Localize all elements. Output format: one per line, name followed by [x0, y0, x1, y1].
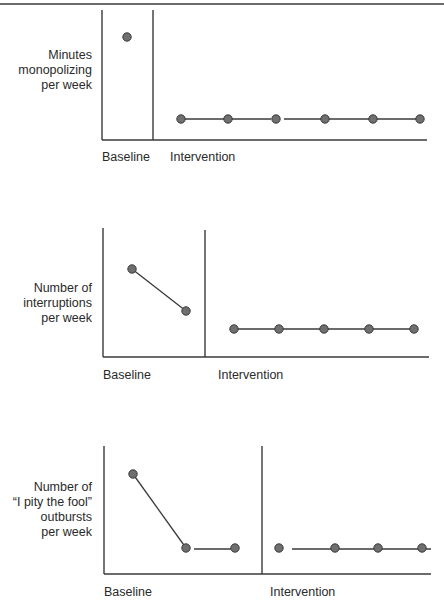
phase-label-baseline: Baseline — [104, 585, 152, 599]
baseline-data-point — [129, 470, 137, 478]
plot-area — [0, 0, 444, 600]
baseline-data-point — [231, 544, 239, 552]
phase-label-intervention: Intervention — [270, 585, 335, 599]
baseline-data-point — [182, 544, 190, 552]
intervention-data-point — [331, 544, 339, 552]
intervention-data-point — [275, 544, 283, 552]
intervention-data-point — [374, 544, 382, 552]
data-line — [133, 474, 186, 548]
intervention-data-point — [418, 544, 426, 552]
